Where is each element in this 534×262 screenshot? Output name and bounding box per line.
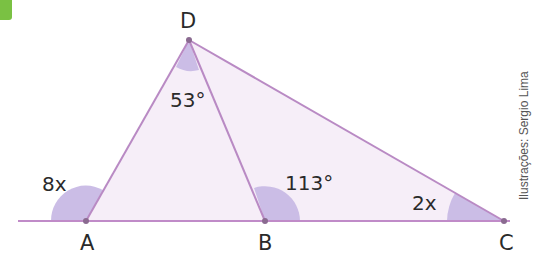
label-a: A: [80, 231, 95, 255]
illustration-credit: Ilustrações: Sergio Lima: [517, 71, 531, 200]
label-c: C: [499, 231, 514, 255]
angle-label-c: 2x: [412, 191, 437, 215]
angle-label-d: 53°: [170, 88, 205, 112]
point-d: [186, 37, 192, 43]
exercise-badge: [0, 0, 12, 20]
angle-label-a: 8x: [42, 172, 67, 196]
triangle-diagram: A B C D 53° 8x 113° 2x Ilustrações: Serg…: [0, 0, 534, 262]
point-a: [83, 218, 89, 224]
point-c: [501, 218, 507, 224]
angle-label-b: 113°: [285, 171, 333, 195]
point-b: [262, 218, 268, 224]
label-d: D: [180, 9, 196, 33]
label-b: B: [258, 231, 272, 255]
